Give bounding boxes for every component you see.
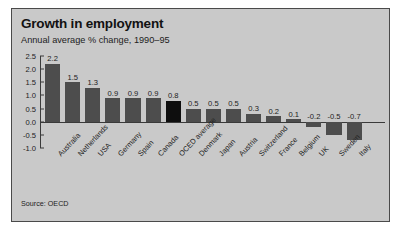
bar-value-label: 0.3 — [248, 104, 259, 113]
bar-value-label: 0.9 — [128, 89, 139, 98]
bar-value-label: 0.1 — [289, 110, 300, 119]
y-tick-label: 2.0 — [25, 65, 40, 74]
bar-value-label: 0.5 — [208, 99, 219, 108]
bar-value-label: -0.5 — [327, 112, 340, 121]
bar-value-label: 0.9 — [108, 89, 119, 98]
bar — [45, 64, 60, 122]
bar-group: 0.3 — [246, 56, 261, 148]
bar — [186, 109, 201, 122]
y-tick-mark — [40, 108, 44, 109]
y-tick-label: -1.0 — [23, 144, 40, 153]
bar-group: -0.5 — [326, 56, 341, 148]
bar-value-label: 0.2 — [268, 107, 279, 116]
bar-group: 2.2 — [45, 56, 60, 148]
y-tick-label: 2.5 — [25, 52, 40, 61]
bar-group: 0.1 — [286, 56, 301, 148]
y-tick-mark — [40, 134, 44, 135]
bar — [166, 101, 181, 122]
source-note: Source: OECD — [21, 199, 69, 208]
bar-value-label: 0.5 — [188, 99, 199, 108]
y-tick-label: 0.0 — [25, 117, 40, 126]
bar-value-label: 1.5 — [67, 73, 78, 82]
bar — [105, 98, 120, 122]
bar — [306, 122, 321, 127]
y-tick-label: -0.5 — [23, 130, 40, 139]
y-tick-mark — [40, 82, 44, 83]
chart-title: Growth in employment — [21, 16, 163, 31]
chart-panel: Growth in employment Annual average % ch… — [11, 8, 390, 222]
bar — [286, 119, 301, 122]
bar — [65, 82, 80, 121]
bar-value-label: 0.5 — [228, 99, 239, 108]
bar — [266, 116, 281, 121]
bar-value-label: 0.8 — [168, 91, 179, 100]
bar-group: 0.5 — [226, 56, 241, 148]
y-tick-mark — [40, 121, 44, 122]
bar — [85, 88, 100, 122]
bar-value-label: 1.3 — [88, 78, 99, 87]
y-tick-mark — [40, 148, 44, 149]
y-tick-label: 1.0 — [25, 91, 40, 100]
bar-value-label: -0.7 — [348, 112, 361, 121]
bar — [226, 109, 241, 122]
bar — [246, 114, 261, 122]
chart-subtitle: Annual average % change, 1990–95 — [21, 35, 170, 45]
y-tick-mark — [40, 56, 44, 57]
bar-group: 0.9 — [146, 56, 161, 148]
bar-group: 0.9 — [105, 56, 120, 148]
y-tick-mark — [40, 69, 44, 70]
bar — [125, 98, 140, 122]
bar — [146, 98, 161, 122]
bar-value-label: 2.2 — [47, 54, 58, 63]
bar — [326, 122, 341, 135]
y-tick-label: 1.5 — [25, 78, 40, 87]
y-tick-mark — [40, 95, 44, 96]
bar-value-label: -0.2 — [307, 112, 320, 121]
bar-value-label: 0.9 — [148, 89, 159, 98]
y-tick-label: 0.5 — [25, 104, 40, 113]
